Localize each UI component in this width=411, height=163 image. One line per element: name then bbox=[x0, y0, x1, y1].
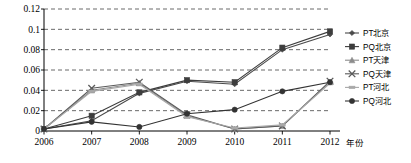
legend-item[interactable]: PT北京 bbox=[345, 28, 389, 38]
x-tick-label: 2006 bbox=[35, 137, 54, 147]
legend-label: PT天津 bbox=[363, 55, 389, 65]
data-series bbox=[41, 79, 333, 131]
data-point-marker bbox=[349, 30, 354, 35]
legend-label: PT河北 bbox=[363, 82, 389, 92]
y-tick-label: 0.04 bbox=[23, 86, 40, 96]
legend-label: PT北京 bbox=[363, 28, 389, 38]
y-tick-label: 0 bbox=[35, 126, 40, 136]
data-point-marker bbox=[327, 29, 332, 34]
y-tick-label: 0.1 bbox=[28, 25, 40, 35]
x-axis-title: 年份 bbox=[346, 138, 364, 148]
data-point-marker bbox=[184, 111, 189, 116]
data-series bbox=[41, 78, 334, 132]
data-point-marker bbox=[41, 126, 46, 131]
legend-item[interactable]: PQ北京 bbox=[345, 42, 391, 52]
data-point-marker bbox=[89, 119, 94, 124]
chart-canvas: 00.020.040.060.080.10.12 200620072008200… bbox=[0, 0, 411, 163]
data-point-marker bbox=[137, 124, 142, 129]
data-point-marker bbox=[232, 127, 238, 130]
data-series-group bbox=[41, 29, 334, 133]
x-axis-tick-labels: 2006200720082009201020112012 bbox=[35, 137, 340, 147]
line-chart: 00.020.040.060.080.10.12 200620072008200… bbox=[0, 0, 411, 163]
data-point-marker bbox=[137, 90, 142, 95]
data-point-marker bbox=[232, 80, 237, 85]
x-tick-label: 2012 bbox=[321, 137, 340, 147]
y-tick-label: 0.08 bbox=[23, 45, 40, 55]
data-point-marker bbox=[89, 90, 95, 93]
data-point-marker bbox=[136, 83, 142, 86]
legend-item[interactable]: PQ天津 bbox=[345, 69, 391, 79]
chart-legend: PT北京PQ北京PT天津PQ天津PT河北PQ河北 bbox=[345, 28, 391, 106]
y-tick-label: 0.02 bbox=[23, 106, 40, 116]
legend-label: PQ河北 bbox=[363, 96, 391, 106]
data-point-marker bbox=[279, 124, 285, 127]
legend-label: PQ天津 bbox=[363, 69, 391, 79]
x-axis-tick-marks bbox=[44, 131, 330, 135]
data-point-marker bbox=[184, 78, 189, 83]
legend-item[interactable]: PT河北 bbox=[345, 82, 389, 92]
legend-item[interactable]: PQ河北 bbox=[345, 96, 391, 106]
data-point-marker bbox=[349, 86, 355, 89]
data-point-marker bbox=[349, 44, 354, 49]
x-tick-label: 2009 bbox=[178, 137, 197, 147]
x-tick-label: 2008 bbox=[130, 137, 149, 147]
data-point-marker bbox=[327, 80, 332, 85]
data-series bbox=[41, 80, 332, 132]
data-point-marker bbox=[349, 98, 354, 103]
y-tick-label: 0.12 bbox=[23, 4, 40, 14]
y-tick-label: 0.06 bbox=[23, 65, 40, 75]
y-axis-tick-labels: 00.020.040.060.080.10.12 bbox=[23, 4, 44, 136]
x-tick-label: 2007 bbox=[82, 137, 101, 147]
data-point-marker bbox=[232, 107, 237, 112]
data-point-marker bbox=[280, 45, 285, 50]
x-tick-label: 2010 bbox=[225, 137, 244, 147]
x-tick-label: 2011 bbox=[273, 137, 292, 147]
data-point-marker bbox=[280, 89, 285, 94]
data-point-marker bbox=[89, 113, 94, 118]
legend-item[interactable]: PT天津 bbox=[345, 55, 389, 65]
legend-label: PQ北京 bbox=[363, 42, 391, 52]
